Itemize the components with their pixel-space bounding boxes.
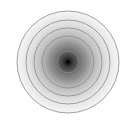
- concentric-rings-figure: [0, 0, 134, 128]
- center-dot: [67, 61, 70, 64]
